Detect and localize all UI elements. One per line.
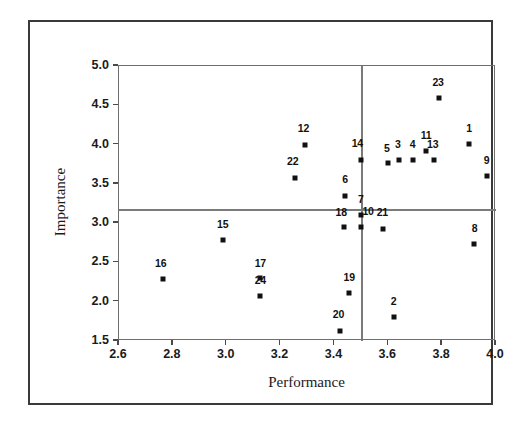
y-axis-tick-label: 2.0 — [92, 294, 109, 308]
data-point — [347, 291, 352, 296]
y-axis-tick — [113, 143, 118, 145]
y-axis-tick-label: 3.5 — [92, 176, 109, 190]
y-axis-tick — [113, 64, 118, 66]
x-axis-tick — [171, 340, 173, 345]
y-axis-tick — [113, 182, 118, 184]
data-point — [432, 157, 437, 162]
x-axis-tick — [279, 340, 281, 345]
data-point — [386, 161, 391, 166]
x-axis-tick-label: 3.2 — [271, 347, 288, 361]
data-point — [397, 158, 402, 163]
data-point-label: 1 — [466, 122, 472, 134]
y-axis-tick-label: 4.5 — [92, 97, 109, 111]
data-point — [343, 193, 348, 198]
data-point — [302, 142, 307, 147]
data-point-label: 14 — [352, 137, 363, 149]
data-point-label: 16 — [155, 257, 166, 269]
x-axis-tick-label: 3.6 — [379, 347, 396, 361]
data-point — [341, 225, 346, 230]
y-axis-tick-label: 4.0 — [92, 137, 109, 151]
data-point-label: 3 — [395, 138, 401, 150]
y-axis-tick — [113, 300, 118, 302]
data-point-label: 13 — [427, 138, 438, 150]
x-axis-tick-label: 4.0 — [486, 347, 503, 361]
horizontal-reference-line — [119, 209, 496, 211]
y-axis-title: Importance — [52, 168, 69, 236]
x-axis-tick-label: 2.8 — [163, 347, 180, 361]
x-axis-tick — [333, 340, 335, 345]
data-point — [472, 241, 477, 246]
x-axis-tick — [225, 340, 227, 345]
y-axis-tick — [113, 261, 118, 263]
y-axis-tick — [113, 221, 118, 223]
data-point — [410, 158, 415, 163]
y-axis-tick-label: 2.5 — [92, 254, 109, 268]
data-point-label: 17 — [255, 257, 266, 269]
x-axis-tick — [117, 340, 119, 345]
x-axis-tick-label: 3.8 — [432, 347, 449, 361]
data-point-label: 2 — [391, 295, 397, 307]
figure-border: 123456789101112131415161718192021222324 … — [28, 20, 493, 405]
data-point — [161, 276, 166, 281]
data-point-label: 22 — [287, 155, 298, 167]
data-point-label: 9 — [484, 154, 490, 166]
data-point — [293, 175, 298, 180]
data-point — [467, 141, 472, 146]
data-point-label: 21 — [377, 206, 388, 218]
x-axis-tick — [387, 340, 389, 345]
data-point-label: 19 — [344, 271, 355, 283]
data-point-label: 6 — [342, 173, 348, 185]
x-axis-tick-label: 3.4 — [325, 347, 342, 361]
x-axis-tick — [440, 340, 442, 345]
data-point — [337, 328, 342, 333]
data-point-label: 18 — [336, 206, 347, 218]
x-axis-tick-label: 2.6 — [109, 347, 126, 361]
y-axis-tick — [113, 104, 118, 106]
data-point-label: 23 — [432, 76, 443, 88]
data-point — [359, 157, 364, 162]
data-point-label: 15 — [217, 218, 228, 230]
data-point — [258, 294, 263, 299]
data-point — [484, 174, 489, 179]
data-point — [220, 237, 225, 242]
data-point — [359, 225, 364, 230]
data-point-label: 20 — [333, 308, 344, 320]
y-axis-tick-label: 3.0 — [92, 215, 109, 229]
data-point — [380, 226, 385, 231]
plot-area: 123456789101112131415161718192021222324 — [118, 65, 495, 340]
y-axis-tick-label: 5.0 — [92, 58, 109, 72]
x-axis-tick — [494, 340, 496, 345]
x-axis-title: Performance — [118, 374, 495, 391]
data-point — [391, 314, 396, 319]
data-point-label: 5 — [384, 142, 390, 154]
data-point — [437, 96, 442, 101]
data-point-label: 10 — [362, 205, 373, 217]
x-axis-tick-label: 3.0 — [217, 347, 234, 361]
data-point-label: 8 — [472, 222, 478, 234]
data-point-label: 4 — [410, 138, 416, 150]
data-point-label: 7 — [358, 193, 364, 205]
data-point-label: 24 — [255, 274, 266, 286]
data-point-label: 12 — [298, 122, 309, 134]
